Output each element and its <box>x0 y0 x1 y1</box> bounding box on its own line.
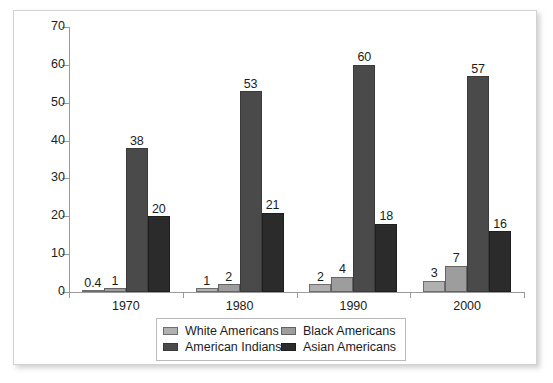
legend-swatch-icon-american-indians <box>163 343 178 351</box>
bar-2000-american-indians: 57 <box>467 76 489 292</box>
legend-label-white-americans: White Americans <box>185 325 279 338</box>
x-axis-label-1980: 1980 <box>226 299 254 313</box>
bar-1990-american-indians: 60 <box>353 65 375 292</box>
bar-2000-white-americans: 3 <box>423 281 445 292</box>
bar-1990-white-americans: 2 <box>309 284 331 292</box>
x-axis-tick-mark <box>410 292 411 298</box>
bar-value-label: 38 <box>130 135 144 148</box>
bar-1970-black-americans: 1 <box>104 288 126 292</box>
bar-1990-asian-americans: 18 <box>375 224 397 292</box>
bar-value-label: 3 <box>431 267 438 280</box>
bar-1990-black-americans: 4 <box>331 277 353 292</box>
bar-value-label: 16 <box>493 218 507 231</box>
legend-label-asian-americans: Asian Americans <box>303 341 396 354</box>
x-axis-tick-mark <box>297 292 298 298</box>
y-axis-tick-label: 30 <box>51 170 65 184</box>
y-axis-tick-label: 20 <box>51 208 65 222</box>
y-axis-tick-label: 50 <box>51 95 65 109</box>
bar-2000-asian-americans: 16 <box>489 231 511 292</box>
legend-item-american-indians: American Indians <box>163 341 281 354</box>
bar-value-label: 1 <box>203 275 210 288</box>
plot-area: 010203040506070 0.4138201253212460183757… <box>69 27 524 292</box>
bar-value-label: 0.4 <box>84 277 101 290</box>
bar-value-label: 57 <box>471 63 485 76</box>
bar-value-label: 60 <box>357 51 371 64</box>
bar-value-label: 53 <box>244 78 258 91</box>
y-axis-tick-label: 0 <box>58 284 65 298</box>
legend-label-american-indians: American Indians <box>185 341 282 354</box>
y-axis-tick-label: 70 <box>51 19 65 33</box>
bar-value-label: 2 <box>317 271 324 284</box>
bar-value-label: 1 <box>111 275 118 288</box>
bar-1980-white-americans: 1 <box>196 288 218 292</box>
bar-1970-asian-americans: 20 <box>148 216 170 292</box>
x-axis-label-1970: 1970 <box>112 299 140 313</box>
y-axis-tick-label: 40 <box>51 133 65 147</box>
legend-label-black-americans: Black Americans <box>303 325 395 338</box>
x-axis-tick-mark <box>183 292 184 298</box>
legend-swatch-icon-asian-americans <box>281 343 296 351</box>
y-axis-line <box>69 27 70 292</box>
x-axis-label-1990: 1990 <box>339 299 367 313</box>
bar-value-label: 18 <box>379 210 393 223</box>
bar-value-label: 2 <box>225 271 232 284</box>
bar-1980-american-indians: 53 <box>240 91 262 292</box>
x-axis-tick-mark <box>524 292 525 298</box>
y-axis-tick-label: 60 <box>51 57 65 71</box>
legend-item-black-americans: Black Americans <box>281 325 399 338</box>
legend-swatch-icon-white-americans <box>163 327 178 335</box>
legend-item-white-americans: White Americans <box>163 325 281 338</box>
bar-value-label: 20 <box>152 203 166 216</box>
legend-row: White Americans Black Americans <box>163 323 399 339</box>
bar-1980-black-americans: 2 <box>218 284 240 292</box>
bar-1970-american-indians: 38 <box>126 148 148 292</box>
y-axis-tick-label: 10 <box>51 246 65 260</box>
bar-value-label: 7 <box>453 252 460 265</box>
bar-2000-black-americans: 7 <box>445 266 467 293</box>
legend-row: American Indians Asian Americans <box>163 339 399 355</box>
chart-figure-frame: 010203040506070 0.4138201253212460183757… <box>13 10 537 365</box>
chart-legend: White Americans Black Americans American… <box>156 318 406 361</box>
x-axis-label-2000: 2000 <box>453 299 481 313</box>
bar-value-label: 4 <box>339 263 346 276</box>
x-axis-tick-mark <box>69 292 70 298</box>
legend-item-asian-americans: Asian Americans <box>281 341 399 354</box>
bar-1980-asian-americans: 21 <box>262 213 284 293</box>
bar-value-label: 21 <box>266 199 280 212</box>
legend-swatch-icon-black-americans <box>281 327 296 335</box>
bar-1970-white-americans: 0.4 <box>82 290 104 292</box>
